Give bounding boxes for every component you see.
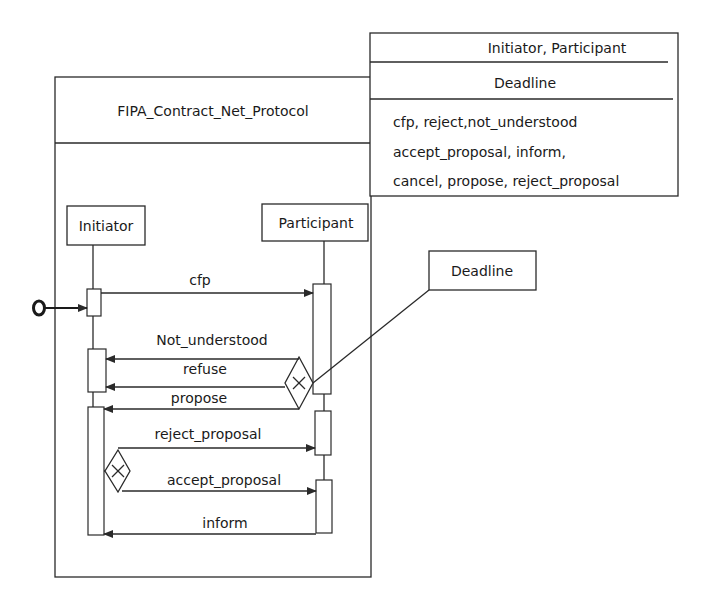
xor-decision-icon	[285, 357, 313, 409]
message-label: inform	[202, 515, 247, 531]
parameter-acts-line: accept_proposal, inform,	[393, 144, 566, 160]
message-inform: inform	[104, 515, 316, 534]
message-cfp: cfp	[101, 272, 313, 293]
message-not-understood: Not_understood	[106, 332, 299, 359]
deadline-label: Deadline	[451, 263, 513, 279]
initiator-label: Initiator	[79, 218, 134, 234]
message-label: Not_understood	[156, 332, 267, 348]
initiator-activation	[87, 289, 101, 316]
message-label: cfp	[189, 272, 211, 288]
participant-activation	[316, 480, 332, 533]
message-propose: propose	[104, 390, 299, 409]
protocol-name: FIPA_Contract_Net_Protocol	[117, 103, 309, 119]
participant-label: Participant	[279, 215, 354, 231]
message-label: propose	[171, 390, 227, 406]
parameter-roles: Initiator, Participant	[488, 40, 627, 56]
initiator-activation	[88, 349, 106, 392]
message-label: reject_proposal	[155, 426, 262, 442]
message-label: accept_proposal	[167, 472, 281, 488]
message-reject-proposal: reject_proposal	[118, 426, 315, 448]
xor-decision-icon	[104, 450, 130, 492]
participant-activation	[315, 411, 331, 455]
participant-activation	[313, 284, 331, 394]
deadline-note: Deadline	[313, 251, 536, 383]
start-circle-icon	[34, 301, 88, 315]
initiator-activation	[88, 407, 104, 535]
sequence-diagram: FIPA_Contract_Net_Protocol Initiator, Pa…	[0, 0, 710, 605]
message-label: refuse	[183, 361, 227, 377]
message-refuse: refuse	[106, 361, 285, 387]
message-accept-proposal: accept_proposal	[122, 472, 316, 491]
parameter-acts-line: cancel, propose, reject_proposal	[393, 173, 619, 189]
parameter-box: Initiator, Participant Deadline cfp, rej…	[370, 33, 678, 196]
parameter-acts-line: cfp, reject,not_understood	[393, 114, 577, 130]
parameter-deadline: Deadline	[494, 75, 556, 91]
